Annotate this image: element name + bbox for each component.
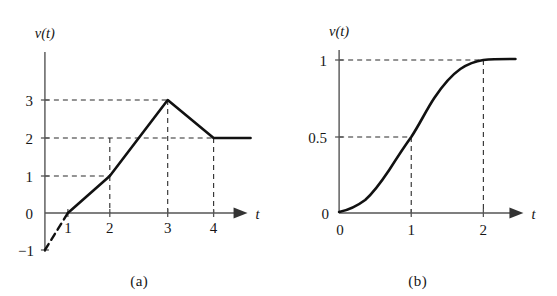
x-tick-label-3: 3 [164,220,171,236]
y-tick-label-0_5: 0.5 [308,130,327,146]
y-axis-title: v(t) [329,23,349,40]
x-tick-label-4: 4 [210,220,218,236]
figure-container: 3 2 1 0 −1 1 2 3 4 v(t) t (a) [0,0,557,296]
y-tick-label-1: 1 [25,169,32,185]
panel-a-caption: (a) [0,273,279,290]
y-tick-label-3: 3 [25,93,32,109]
chart-b-svg: 1 0.5 0 0 1 2 v(t) t [279,0,557,296]
chart-panel-a: 3 2 1 0 −1 1 2 3 4 v(t) t (a) [0,0,279,296]
x-tick-label-0: 0 [336,222,344,238]
x-axis-arrowhead [509,208,523,219]
y-axis-title: v(t) [35,25,55,42]
series-sigmoid-curve [339,59,515,212]
y-tick-label-1: 1 [319,53,327,69]
y-tick-label-minus-1: −1 [18,243,34,259]
x-tick-label-1: 1 [64,220,71,236]
x-axis-title: t [256,206,261,222]
y-tick-label-0: 0 [25,206,32,222]
x-axis-arrowhead [234,208,248,219]
x-tick-label-2: 2 [106,220,113,236]
panel-b-caption: (b) [279,273,557,290]
x-tick-label-2: 2 [479,222,487,238]
series-piecewise-linear [68,100,251,213]
y-tick-label-0: 0 [321,206,329,222]
y-tick-label-2: 2 [25,131,32,147]
x-axis-title: t [531,206,536,222]
chart-a-svg: 3 2 1 0 −1 1 2 3 4 v(t) t [0,0,279,296]
chart-panel-b: 1 0.5 0 0 1 2 v(t) t (b) [279,0,557,296]
x-tick-label-1: 1 [407,222,415,238]
